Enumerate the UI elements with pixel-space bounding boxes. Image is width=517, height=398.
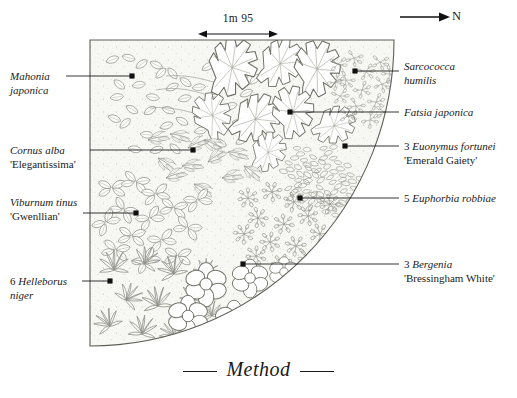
plant-label-viburnum-tinus-gwenllian: Viburnum tinus'Gwenllian'	[10, 196, 77, 223]
plant-label-euphorbia-robbiae: 5 Euphorbia robbiae	[404, 192, 496, 206]
plant-label-line: Viburnum tinus	[10, 196, 77, 210]
caption-rule-right	[300, 371, 334, 372]
plant-label-line: 6 Helleborus	[10, 275, 67, 289]
plant-label-euonymus-fortunei-emerald-gaiety: 3 Euonymus fortunei'Emerald Gaiety'	[404, 140, 496, 167]
north-arrow-icon	[400, 10, 450, 24]
plant-label-line: Cornus alba	[10, 144, 76, 158]
plant-label-line: 'Bressingham White'	[404, 272, 495, 286]
plant-label-line: 'Emerald Gaiety'	[404, 154, 496, 168]
scale-bar-label: 1m 95	[198, 12, 278, 24]
north-label: N	[452, 9, 461, 24]
plant-label-line: 3 Bergenia	[404, 258, 495, 272]
garden-plan-figure: 1m 95 N	[0, 0, 517, 398]
bed-fill	[88, 38, 396, 348]
plant-label-line: Mahonia	[10, 70, 50, 84]
plant-label-line: Fatsia japonica	[404, 106, 473, 120]
plant-label-line: 5 Euphorbia robbiae	[404, 192, 496, 206]
quarter-circle-planting-bed	[88, 38, 396, 348]
plant-label-line: japonica	[10, 84, 50, 98]
plant-label-line: 'Elegantissima'	[10, 158, 76, 172]
plant-label-line: niger	[10, 289, 67, 303]
plant-label-bergenia-bressingham-white: 3 Bergenia'Bressingham White'	[404, 258, 495, 285]
plant-label-fatsia-japonica: Fatsia japonica	[404, 106, 473, 120]
plant-label-sarcococca-humilis: Sarcococcahumilis	[404, 60, 455, 87]
plant-label-line: Sarcococca	[404, 60, 455, 74]
plant-label-helleborus-niger: 6 Helleborusniger	[10, 275, 67, 302]
plant-label-mahonia-japonica: Mahoniajaponica	[10, 70, 50, 97]
caption-text: Method	[226, 358, 290, 380]
figure-caption: Method	[0, 358, 517, 381]
plant-label-line: 'Gwenllian'	[10, 210, 77, 224]
caption-rule-left	[183, 371, 217, 372]
plant-label-cornus-alba-elegantissima: Cornus alba'Elegantissima'	[10, 144, 76, 171]
plant-label-line: humilis	[404, 74, 455, 88]
plant-label-line: 3 Euonymus fortunei	[404, 140, 496, 154]
